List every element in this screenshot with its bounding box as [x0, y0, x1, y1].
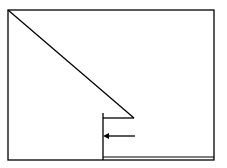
arrowhead-icon	[103, 133, 109, 139]
diagram-canvas	[0, 0, 227, 168]
frame-border	[8, 10, 214, 160]
diagonal-line	[8, 10, 134, 118]
